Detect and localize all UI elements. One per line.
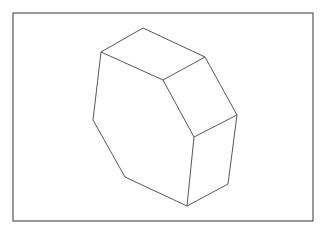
figure-frame — [13, 13, 313, 221]
diagram-canvas — [0, 0, 320, 229]
